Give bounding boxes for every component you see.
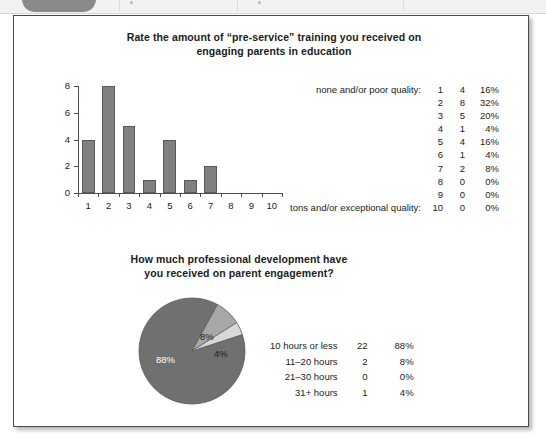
- bar-chart-bar: [123, 126, 136, 193]
- bar-chart-x-tick-mark: [139, 193, 140, 197]
- pie-chart: 88% 8% 4%: [132, 296, 252, 406]
- bar-chart-x-tick-label: 9: [241, 200, 261, 211]
- pie-legend-label: 21–30 hours: [270, 371, 346, 387]
- bar-legend-count: 1: [443, 149, 465, 162]
- bar-legend-row: 614%: [290, 149, 499, 162]
- bar-legend-percent: 16%: [465, 84, 499, 97]
- bar-chart-x-tick-label: 6: [180, 200, 200, 211]
- bar-legend-anchor-label: [290, 149, 427, 162]
- bar-chart-y-tick-label: 6: [42, 107, 70, 118]
- bar-chart-title-line1: Rate the amount of “pre-service” trainin…: [74, 30, 474, 44]
- bar-legend-count: 4: [443, 136, 465, 149]
- bar-legend-percent: 16%: [465, 136, 499, 149]
- pie-legend-percent: 8%: [368, 356, 414, 372]
- bar-chart-x-tick-label: 7: [201, 200, 221, 211]
- toolbar-divider: [403, 0, 404, 11]
- pie-legend-row: 31+ hours14%: [270, 387, 414, 403]
- pie-legend-label: 31+ hours: [270, 387, 346, 403]
- bar-legend-count: 2: [443, 163, 465, 176]
- bar-legend-anchor-label: [290, 97, 427, 110]
- bar-chart-x-tick-label: 5: [160, 200, 180, 211]
- pie-slice-label-3: 4%: [214, 348, 228, 359]
- bar-chart-x-tick-label: 8: [221, 200, 241, 211]
- pie-legend-count: 0: [346, 371, 368, 387]
- bar-legend-count: 0: [443, 176, 465, 189]
- bar-chart-x-tick-mark: [119, 193, 120, 197]
- bar-legend-scale: 10: [427, 202, 443, 215]
- pie-slice-label-1: 88%: [156, 354, 175, 365]
- bar-legend-row: tons and/or exceptional quality:1000%: [290, 202, 499, 215]
- bar-chart-bar: [184, 180, 197, 193]
- bar-chart-y-tick-mark: [74, 140, 79, 141]
- bar-chart-x-tick-mark: [241, 193, 242, 197]
- toolbar-active-tab[interactable]: [22, 0, 96, 12]
- bar-chart-y-tick-mark: [74, 166, 79, 167]
- bar-chart-x-tick-mark: [78, 193, 79, 197]
- pie-legend-row: 10 hours or less2288%: [270, 340, 414, 356]
- bar-legend-anchor-label: [290, 176, 427, 189]
- bar-chart-x-tick-label: 4: [139, 200, 159, 211]
- bar-chart-y-tick-mark: [74, 86, 79, 87]
- bar-legend-percent: 20%: [465, 110, 499, 123]
- bar-legend-count: 8: [443, 97, 465, 110]
- toolbar-divider: [119, 0, 120, 11]
- bar-chart-x-tick-mark: [221, 193, 222, 197]
- bar-legend-percent: 0%: [465, 202, 499, 215]
- pie-chart-title: How much professional development have y…: [74, 252, 404, 280]
- bar-chart-bar: [143, 180, 156, 193]
- bar-legend-percent: 4%: [465, 149, 499, 162]
- bar-legend-anchor-label: [290, 189, 427, 202]
- toolbar-dot-icon: [130, 1, 133, 4]
- bar-legend-percent: 8%: [465, 163, 499, 176]
- bar-legend-anchor-label: [290, 110, 427, 123]
- bar-legend-percent: 32%: [465, 97, 499, 110]
- bar-legend-scale: 6: [427, 149, 443, 162]
- bar-legend-row: 5416%: [290, 136, 499, 149]
- toolbar-divider: [237, 0, 238, 11]
- bar-chart-x-tick-mark: [180, 193, 181, 197]
- bar-legend-scale: 9: [427, 189, 443, 202]
- pie-legend-table: 10 hours or less2288%11–20 hours28%21–30…: [270, 340, 414, 402]
- bar-chart-x-tick-label: 10: [262, 200, 282, 211]
- pie-chart-svg: [132, 296, 252, 406]
- bar-legend-row: none and/or poor quality:1416%: [290, 84, 499, 97]
- bar-chart-y-tick-mark: [74, 113, 79, 114]
- bar-chart: 0246812345678910: [42, 80, 292, 225]
- bar-legend-table: none and/or poor quality:1416%2832%3520%…: [290, 84, 499, 215]
- bar-chart-x-tick-mark: [98, 193, 99, 197]
- bar-legend-anchor-label: [290, 123, 427, 136]
- bar-legend-percent: 0%: [465, 176, 499, 189]
- bar-chart-y-tick-label: 2: [42, 160, 70, 171]
- pie-slice-label-2: 8%: [200, 331, 214, 342]
- bar-legend-row: 3520%: [290, 110, 499, 123]
- pie-chart-legend: 10 hours or less2288%11–20 hours28%21–30…: [270, 340, 414, 402]
- pie-legend-count: 1: [346, 387, 368, 403]
- document-page: Rate the amount of “pre-service” trainin…: [13, 15, 529, 427]
- bar-legend-scale: 2: [427, 97, 443, 110]
- pie-chart-title-line2: you received on parent engagement?: [74, 266, 404, 280]
- bar-chart-bar: [163, 140, 176, 194]
- pie-legend-percent: 0%: [368, 371, 414, 387]
- bar-chart-title: Rate the amount of “pre-service” trainin…: [74, 30, 474, 58]
- bar-chart-bar: [204, 166, 217, 193]
- bar-legend-scale: 1: [427, 84, 443, 97]
- pie-legend-row: 21–30 hours00%: [270, 371, 414, 387]
- bar-legend-row: 728%: [290, 163, 499, 176]
- bar-chart-legend: none and/or poor quality:1416%2832%3520%…: [290, 84, 499, 215]
- bar-legend-count: 0: [443, 189, 465, 202]
- pie-legend-row: 11–20 hours28%: [270, 356, 414, 372]
- pie-legend-label: 11–20 hours: [270, 356, 346, 372]
- bar-legend-row: 800%: [290, 176, 499, 189]
- bar-legend-percent: 0%: [465, 189, 499, 202]
- pie-chart-title-line1: How much professional development have: [74, 252, 404, 266]
- bar-legend-count: 4: [443, 84, 465, 97]
- toolbar-dot-icon: [258, 1, 261, 4]
- pie-legend-count: 22: [346, 340, 368, 356]
- bar-chart-x-tick-mark: [200, 193, 201, 197]
- top-toolbar: [0, 0, 546, 14]
- bar-legend-scale: 4: [427, 123, 443, 136]
- bar-chart-x-tick-label: 1: [78, 200, 98, 211]
- bar-chart-x-tick-label: 3: [119, 200, 139, 211]
- bar-legend-scale: 8: [427, 176, 443, 189]
- bar-legend-row: 2832%: [290, 97, 499, 110]
